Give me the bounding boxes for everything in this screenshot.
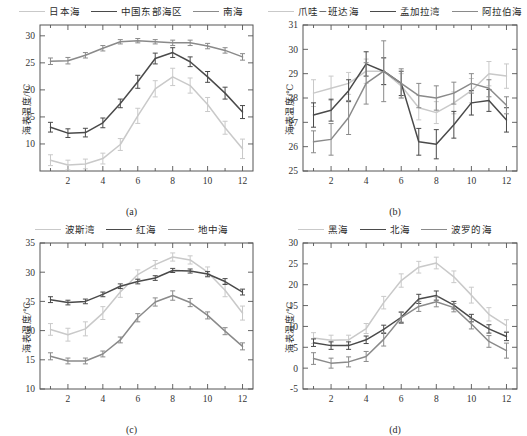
legend-label: 黑海 [328, 222, 348, 236]
x-tick-label: 2 [66, 176, 71, 186]
legend-line-icon [19, 11, 45, 12]
legend-d: 黑海 北海 波罗的海 [263, 219, 527, 239]
legend-line-icon [268, 11, 294, 12]
legend-label: 红海 [136, 222, 156, 236]
y-tick-label: 25 [289, 259, 299, 269]
y-tick-label: 29 [289, 69, 299, 79]
y-tick-label: 26 [289, 142, 299, 152]
plot-area-c: 10152025303524681012 [0, 237, 263, 413]
x-tick-label: 12 [238, 394, 248, 404]
x-tick-label: 2 [329, 394, 334, 404]
x-tick-label: 4 [364, 176, 369, 186]
plot-frame [40, 25, 253, 171]
y-tick-label: 30 [26, 31, 36, 41]
x-tick-label: 10 [203, 394, 213, 404]
legend-label: 波罗的海 [451, 222, 492, 236]
x-tick-label: 4 [100, 394, 105, 404]
legend-label: 地中海 [198, 222, 229, 236]
y-tick-label: 31 [289, 20, 299, 30]
y-tick-label: 35 [26, 238, 36, 248]
legend-b: 爪哇－班达海 孟加拉湾 阿拉伯海 [263, 1, 527, 21]
legend-item: 孟加拉湾 [370, 4, 441, 18]
y-tick-label: 28 [289, 93, 299, 103]
x-tick-label: 10 [467, 394, 477, 404]
legend-label: 孟加拉湾 [400, 4, 441, 18]
legend-line-icon [298, 229, 324, 230]
x-tick-label: 6 [135, 394, 140, 404]
figure-grid: 日本海 中国东部海区 南海 海表温度/℃ 101520253024681012 … [0, 0, 527, 436]
x-tick-label: 2 [66, 394, 71, 404]
panel-a: 日本海 中国东部海区 南海 海表温度/℃ 101520253024681012 … [0, 0, 263, 218]
y-tick-label: -5 [290, 384, 298, 394]
y-tick-label: 10 [289, 322, 299, 332]
y-tick-label: 10 [26, 384, 36, 394]
legend-line-icon [35, 229, 61, 230]
y-tick-label: 30 [289, 238, 299, 248]
y-tick-label: 27 [289, 118, 299, 128]
series-波斯湾 [48, 253, 245, 341]
legend-item: 南海 [193, 4, 243, 18]
y-tick-label: 30 [289, 45, 299, 55]
legend-line-icon [193, 11, 219, 12]
x-tick-label: 12 [238, 176, 248, 186]
y-tick-label: 20 [289, 280, 299, 290]
x-tick-label: 12 [502, 394, 512, 404]
y-tick-label: 20 [26, 326, 36, 336]
x-tick-label: 6 [135, 176, 140, 186]
legend-line-icon [370, 11, 396, 12]
panel-caption: (c) [0, 424, 263, 435]
panel-caption: (d) [263, 424, 527, 435]
panel-c: 波斯湾 红海 地中海 海表温度/℃ 10152025303524681012 (… [0, 218, 263, 436]
x-tick-label: 8 [434, 394, 439, 404]
x-tick-label: 10 [467, 176, 477, 186]
x-tick-label: 6 [399, 394, 404, 404]
x-tick-label: 8 [170, 394, 175, 404]
chart-svg: 10152025303524681012 [0, 237, 263, 413]
x-tick-label: 4 [364, 394, 369, 404]
legend-label: 北海 [390, 222, 410, 236]
legend-line-icon [452, 11, 478, 12]
x-tick-label: 8 [434, 176, 439, 186]
legend-line-icon [360, 229, 386, 230]
y-tick-label: 25 [289, 166, 299, 176]
series-阿拉伯海 [311, 41, 509, 155]
legend-item: 北海 [360, 222, 410, 236]
legend-item: 红海 [106, 222, 156, 236]
legend-item: 地中海 [168, 222, 229, 236]
legend-line-icon [106, 229, 132, 230]
y-tick-label: 0 [293, 364, 298, 374]
legend-line-icon [91, 11, 117, 12]
x-tick-label: 6 [399, 176, 404, 186]
legend-item: 波罗的海 [421, 222, 492, 236]
plot-frame [303, 243, 517, 389]
y-tick-label: 20 [26, 85, 36, 95]
legend-item: 中国东部海区 [91, 4, 182, 18]
y-tick-label: 25 [26, 297, 36, 307]
plot-area-a: 101520253024681012 [0, 19, 263, 195]
y-tick-label: 5 [293, 343, 298, 353]
legend-label: 爪哇－班达海 [298, 4, 359, 18]
plot-area-b: 2526272829303124681012 [263, 19, 527, 195]
panel-caption: (b) [263, 206, 527, 217]
y-tick-label: 15 [289, 301, 299, 311]
chart-svg: 2526272829303124681012 [263, 19, 527, 195]
series-红海 [48, 268, 245, 305]
plot-area-d: -505101520253024681012 [263, 237, 527, 413]
series-孟加拉湾 [311, 52, 509, 159]
y-tick-label: 25 [26, 58, 36, 68]
x-tick-label: 4 [100, 176, 105, 186]
legend-line-icon [168, 229, 194, 230]
legend-c: 波斯湾 红海 地中海 [0, 219, 263, 239]
legend-line-icon [421, 229, 447, 230]
legend-label: 南海 [223, 4, 243, 18]
y-tick-label: 30 [26, 268, 36, 278]
y-tick-label: 10 [26, 139, 36, 149]
panel-d: 黑海 北海 波罗的海 海表温度/℃ -505101520253024681012… [263, 218, 527, 436]
legend-a: 日本海 中国东部海区 南海 [0, 1, 263, 21]
panel-b: 爪哇－班达海 孟加拉湾 阿拉伯海 海表温度/℃ 2526272829303124… [263, 0, 527, 218]
legend-item: 阿拉伯海 [452, 4, 523, 18]
legend-item: 波斯湾 [35, 222, 96, 236]
legend-item: 黑海 [298, 222, 348, 236]
series-南海 [48, 39, 245, 65]
plot-frame [40, 243, 253, 389]
